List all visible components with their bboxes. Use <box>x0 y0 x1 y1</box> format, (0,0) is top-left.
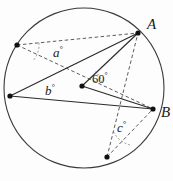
point-left <box>7 93 12 98</box>
point-upper-left <box>14 42 19 47</box>
point-label-a: A <box>147 17 156 32</box>
dashed-segment-p-b <box>17 45 153 109</box>
point-label-b: B <box>161 105 170 120</box>
point-bottom <box>104 154 109 159</box>
angle-arc-a <box>33 43 40 61</box>
point-center <box>79 83 84 88</box>
degree-symbol-c: ° <box>123 119 127 129</box>
angle-label-b: b° <box>45 83 55 97</box>
angle-label-60: 60° <box>92 72 108 86</box>
degree-symbol-60: ° <box>105 71 108 80</box>
angle-label-a: a° <box>53 45 63 59</box>
degree-symbol-b: ° <box>52 82 56 92</box>
dashed-segment-p-a <box>17 33 138 45</box>
angle-label-c: c° <box>117 120 126 134</box>
angle-label-60-text: 60 <box>92 72 105 86</box>
solid-segment-q-a <box>10 33 138 96</box>
circle-angle-diagram: A B a° b° c° 60° <box>0 0 173 181</box>
solid-segment-o-a <box>82 33 138 86</box>
point-b <box>150 106 155 111</box>
point-a <box>135 30 140 35</box>
degree-symbol-a: ° <box>60 44 64 54</box>
